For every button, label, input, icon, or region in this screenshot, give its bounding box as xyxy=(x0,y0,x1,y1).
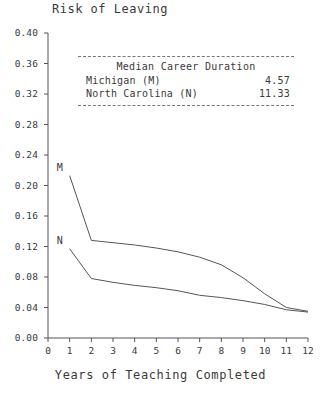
y-axis-tick-label: 0.28 xyxy=(4,119,38,130)
x-axis-tick-label: 9 xyxy=(235,345,251,356)
y-axis-tick-label: 0.08 xyxy=(4,271,38,282)
x-axis-tick-label: 3 xyxy=(105,345,121,356)
legend-row-label: North Carolina (N) xyxy=(86,88,198,99)
y-axis-tick-label: 0.20 xyxy=(4,180,38,191)
legend-heading: Median Career Duration xyxy=(78,57,294,74)
x-axis-tick-label: 8 xyxy=(213,345,229,356)
legend-bottom-rule xyxy=(78,105,294,106)
y-axis-tick-label: 0.40 xyxy=(4,27,38,38)
legend-row: Michigan (M) 4.57 xyxy=(78,74,294,87)
y-axis-tick-label: 0.00 xyxy=(4,332,38,343)
x-axis-tick-label: 2 xyxy=(83,345,99,356)
x-axis-tick-label: 11 xyxy=(278,345,294,356)
x-axis-tick-label: 5 xyxy=(148,345,164,356)
y-axis-tick-label: 0.04 xyxy=(4,302,38,313)
y-axis-tick-label: 0.36 xyxy=(4,58,38,69)
legend-row-value: 4.57 xyxy=(265,75,290,86)
x-axis-tick-label: 6 xyxy=(170,345,186,356)
data-series xyxy=(70,176,308,312)
x-axis-tick-label: 12 xyxy=(300,345,316,356)
x-axis-tick-label: 10 xyxy=(257,345,273,356)
x-axis-tick-label: 0 xyxy=(40,345,56,356)
x-axis-tick-label: 7 xyxy=(192,345,208,356)
legend-row-value: 11.33 xyxy=(259,88,290,99)
y-axis-tick-label: 0.12 xyxy=(4,241,38,252)
legend-row: North Carolina (N) 11.33 xyxy=(78,87,294,100)
legend-row-label: Michigan (M) xyxy=(86,75,161,86)
x-axis-tick-label: 4 xyxy=(127,345,143,356)
series-label-m: M xyxy=(57,162,63,173)
series-line xyxy=(70,249,308,312)
y-axis-tick-label: 0.16 xyxy=(4,210,38,221)
legend-box: Median Career Duration Michigan (M) 4.57… xyxy=(78,56,294,106)
x-axis-title: Years of Teaching Completed xyxy=(0,368,321,382)
y-axis-tick-label: 0.32 xyxy=(4,88,38,99)
y-axis-tick-label: 0.24 xyxy=(4,149,38,160)
chart-container: Risk of Leaving 0.000.040.080.120.160.20… xyxy=(0,0,321,396)
series-label-n: N xyxy=(57,235,63,246)
series-line xyxy=(70,176,308,312)
x-axis-tick-label: 1 xyxy=(62,345,78,356)
